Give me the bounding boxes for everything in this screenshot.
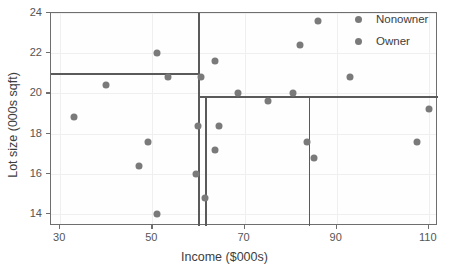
y-tick-label: 14 [20, 207, 42, 219]
legend-marker-icon [355, 16, 362, 23]
data-point-nonowner [414, 138, 421, 145]
legend-marker-icon [355, 38, 362, 45]
x-tick [151, 225, 152, 229]
x-tick-label: 90 [330, 231, 342, 243]
gridline-horizontal [51, 214, 436, 215]
y-tick [46, 133, 50, 134]
gridline-horizontal [51, 134, 436, 135]
data-point-owner [289, 90, 296, 97]
legend-item-owner: Owner [343, 30, 443, 52]
x-tick [428, 225, 429, 229]
split-line-vertical [198, 13, 199, 226]
data-point-owner [211, 58, 218, 65]
y-axis-title: Lot size (000s sqft) [6, 30, 20, 220]
y-tick-label: 24 [20, 6, 42, 18]
data-point-nonowner [153, 210, 160, 217]
y-tick-label: 20 [20, 86, 42, 98]
data-point-owner [264, 98, 271, 105]
data-point-owner [197, 74, 204, 81]
gridline-vertical [60, 13, 61, 224]
gridline-horizontal [51, 53, 436, 54]
gridline-vertical [245, 13, 246, 224]
x-tick-label: 70 [237, 231, 249, 243]
split-line-vertical [309, 96, 310, 226]
data-point-owner [347, 74, 354, 81]
gridline-horizontal [51, 93, 436, 94]
gridline-vertical [337, 13, 338, 224]
data-point-nonowner [193, 170, 200, 177]
x-tick-label: 30 [53, 231, 65, 243]
x-tick [244, 225, 245, 229]
x-tick-label: 110 [419, 231, 437, 243]
x-tick [59, 225, 60, 229]
data-point-owner [165, 74, 172, 81]
y-tick-label: 18 [20, 127, 42, 139]
legend-item-nonowner: Nonowner [343, 8, 443, 30]
gridline-vertical [152, 13, 153, 224]
data-point-nonowner [103, 82, 110, 89]
data-point-owner [296, 42, 303, 49]
scatter-chart-figure: 30507090110141618202224 Income ($000s) L… [0, 0, 449, 278]
split-line-horizontal [51, 73, 198, 74]
data-point-owner [315, 18, 322, 25]
data-point-nonowner [71, 114, 78, 121]
data-point-nonowner [211, 146, 218, 153]
y-tick [46, 213, 50, 214]
y-tick-label: 16 [20, 167, 42, 179]
data-point-owner [234, 90, 241, 97]
data-point-nonowner [195, 122, 202, 129]
y-tick [46, 12, 50, 13]
x-axis-title: Income ($000s) [0, 250, 449, 264]
split-line-vertical [205, 96, 206, 226]
data-point-nonowner [310, 154, 317, 161]
y-tick [46, 92, 50, 93]
legend: Nonowner Owner [343, 8, 443, 52]
split-line-horizontal [198, 96, 438, 97]
data-point-owner [153, 50, 160, 57]
y-tick [46, 52, 50, 53]
data-point-owner [425, 106, 432, 113]
data-point-nonowner [144, 138, 151, 145]
data-point-nonowner [135, 162, 142, 169]
x-tick [336, 225, 337, 229]
data-point-nonowner [216, 122, 223, 129]
data-point-nonowner [303, 138, 310, 145]
legend-label: Nonowner [376, 13, 428, 25]
legend-label: Owner [376, 35, 410, 47]
data-point-nonowner [202, 194, 209, 201]
y-tick-label: 22 [20, 46, 42, 58]
x-tick-label: 50 [145, 231, 157, 243]
gridline-horizontal [51, 174, 436, 175]
y-tick [46, 173, 50, 174]
